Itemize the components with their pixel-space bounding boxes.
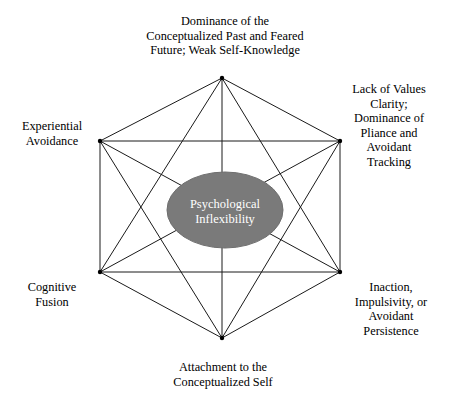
- core-label-line-2: Inflexibility: [195, 212, 255, 226]
- edge-lower-right-to-bottom: [222, 272, 340, 338]
- edge-top-to-upper-left: [100, 78, 222, 141]
- core-label-line-1: Psychological: [190, 197, 261, 211]
- core-ellipse-group: PsychologicalInflexibility: [167, 172, 283, 248]
- node-label-lower-left: Cognitive Fusion: [4, 280, 100, 309]
- vertex-dot-lower-left: [98, 270, 102, 274]
- hexaflex-diagram: PsychologicalInflexibility Dominance of …: [0, 0, 452, 410]
- node-label-upper-left: Experiential Avoidance: [2, 119, 102, 148]
- node-label-upper-right: Lack of Values Clarity; Dominance of Pli…: [330, 82, 448, 169]
- node-label-bottom: Attachment to the Conceptualized Self: [130, 360, 316, 389]
- edge-bottom-to-lower-left: [100, 272, 222, 338]
- hexaflex-graph: PsychologicalInflexibility: [0, 0, 452, 410]
- vertex-dot-lower-right: [338, 270, 342, 274]
- edge-top-to-upper-right: [222, 78, 340, 141]
- node-label-lower-right: Inaction, Impulsivity, or Avoidant Persi…: [334, 280, 448, 338]
- vertex-dot-bottom: [220, 336, 224, 340]
- node-label-top: Dominance of the Conceptualized Past and…: [108, 14, 342, 58]
- vertex-dot-top: [220, 76, 224, 80]
